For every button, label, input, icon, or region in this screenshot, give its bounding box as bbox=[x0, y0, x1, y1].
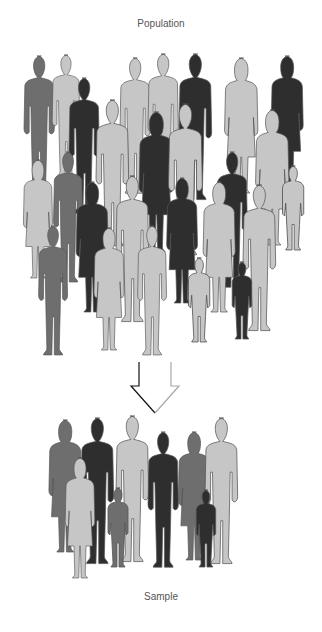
person-icon bbox=[148, 432, 178, 567]
down-arrow-icon bbox=[131, 362, 179, 413]
population-group bbox=[23, 54, 303, 355]
sample-group bbox=[49, 416, 238, 578]
population-sample-diagram bbox=[0, 0, 322, 632]
sample-label: Sample bbox=[0, 591, 322, 602]
